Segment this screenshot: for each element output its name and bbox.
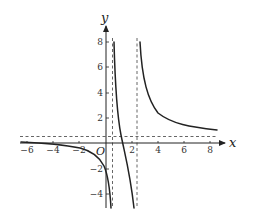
right-branch-curve [140,42,217,130]
function-graph: −6 −4 −2 2 4 6 8 8 6 4 2 −2 −4 x y O [0,0,253,220]
svg-text:2: 2 [129,145,135,155]
y-tick-labels: 8 6 4 2 −2 −4 [90,37,104,199]
curves [21,42,217,208]
x-axis-label: x [229,135,237,150]
middle-branch-curve [114,42,134,208]
svg-text:2: 2 [97,113,103,123]
x-tick-labels: −6 −4 −2 2 4 6 8 [20,145,213,155]
svg-text:−4: −4 [90,189,104,199]
svg-text:6: 6 [181,145,187,155]
svg-text:4: 4 [97,88,103,98]
y-axis-label: y [100,10,109,25]
svg-text:8: 8 [97,37,103,47]
svg-text:−2: −2 [90,164,103,174]
axes [20,26,225,208]
svg-text:6: 6 [97,62,103,72]
svg-text:−6: −6 [20,145,34,155]
svg-text:8: 8 [207,145,213,155]
svg-text:−4: −4 [46,145,60,155]
svg-text:4: 4 [155,145,161,155]
